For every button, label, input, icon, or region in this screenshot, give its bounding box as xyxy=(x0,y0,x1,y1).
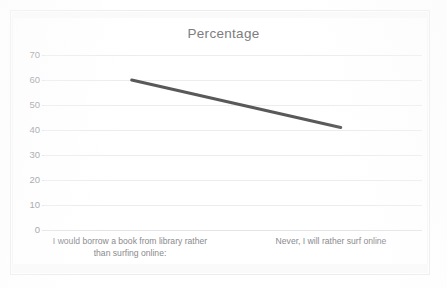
y-tick-label: 20 xyxy=(8,175,40,185)
plot-area xyxy=(44,55,422,230)
y-tick-label: 30 xyxy=(8,150,40,160)
y-tick-label: 40 xyxy=(8,125,40,135)
chart-title: Percentage xyxy=(0,26,447,41)
y-axis: 70 60 50 40 30 20 10 0 xyxy=(4,55,40,230)
chart-figure: Percentage 70 60 50 40 30 20 10 0 I woul… xyxy=(0,0,447,288)
y-tick-label: 50 xyxy=(8,100,40,110)
y-tick-label: 10 xyxy=(8,200,40,210)
series-polyline xyxy=(132,80,341,128)
x-tick-label-1: Never, I will rather surf online xyxy=(236,236,426,248)
x-tick-label-0-line1: I would borrow a book from library rathe… xyxy=(24,236,236,248)
y-tick-label: 60 xyxy=(8,75,40,85)
x-axis-line xyxy=(44,230,422,231)
y-tick-label: 70 xyxy=(8,50,40,60)
x-tick-label-0: I would borrow a book from library rathe… xyxy=(24,236,236,259)
data-series-line xyxy=(44,55,422,230)
x-tick-label-1-line1: Never, I will rather surf online xyxy=(236,236,426,248)
x-tick-label-0-line2: than surfing online: xyxy=(24,248,236,260)
y-tick-label: 0 xyxy=(8,225,40,235)
